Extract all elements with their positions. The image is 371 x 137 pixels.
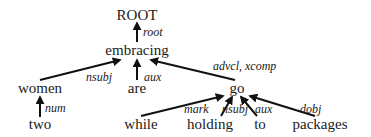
relation-label: root: [143, 25, 163, 39]
relation-label: mark: [184, 102, 209, 116]
relation-label: advcl, xcomp: [213, 59, 276, 73]
word-node-embracing: embracing: [105, 42, 169, 58]
relation-label: nsubj: [86, 70, 113, 84]
word-node-holding: holding: [187, 116, 233, 132]
word-node-root: ROOT: [117, 7, 158, 23]
word-node-while: while: [124, 116, 158, 132]
relation-label: nsubj: [222, 102, 249, 116]
word-node-to: to: [254, 116, 266, 132]
word-node-women: women: [18, 80, 63, 96]
word-node-go: go: [230, 80, 245, 96]
relation-label: aux: [144, 70, 162, 84]
relation-labels-layer: rootnsubjauxadvcl, xcompnummarknsubjauxd…: [45, 25, 322, 116]
relation-label: aux: [255, 102, 273, 116]
dependency-tree-diagram: rootnsubjauxadvcl, xcompnummarknsubjauxd…: [0, 0, 371, 137]
relation-label: num: [45, 101, 66, 115]
word-nodes-layer: ROOTembracingwomenaregotwowhileholdingto…: [18, 7, 348, 132]
relation-label: dobj: [300, 102, 322, 116]
word-node-two: two: [29, 116, 52, 132]
word-node-are: are: [128, 80, 147, 96]
word-node-packages: packages: [293, 116, 348, 132]
edge-arrow-while-to-go: [141, 96, 223, 116]
